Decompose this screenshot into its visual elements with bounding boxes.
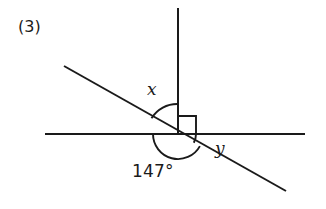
angle-label-y: y <box>215 140 225 157</box>
angle-arc-x <box>152 104 179 118</box>
geometry-figure: (3) x y 147° <box>0 0 326 209</box>
transversal-line <box>64 66 286 191</box>
angle-label-x: x <box>147 81 157 98</box>
angle-value-label: 147° <box>132 163 174 180</box>
item-number-label: (3) <box>18 19 41 35</box>
